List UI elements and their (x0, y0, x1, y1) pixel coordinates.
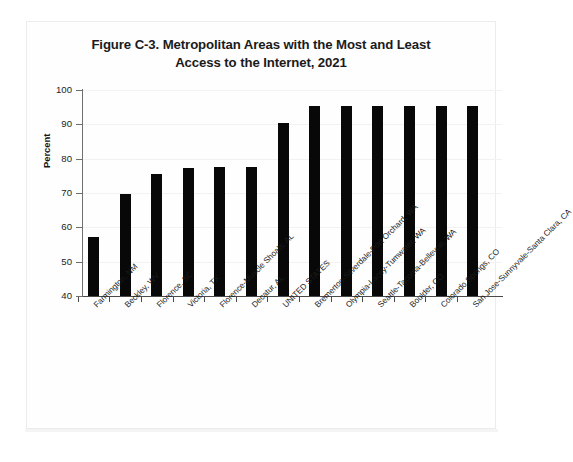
bar (436, 106, 447, 296)
gridline (82, 90, 502, 91)
y-axis-tick (76, 193, 83, 194)
x-axis-tick (362, 297, 363, 302)
bar (278, 123, 289, 296)
x-axis-tick (331, 297, 332, 302)
chart-title-line-1: Figure C-3. Metropolitan Areas with the … (91, 37, 430, 52)
y-axis-tick-label: 70 (44, 187, 72, 198)
y-axis-tick-label: 50 (44, 256, 72, 267)
chart-title-line-2: Access to the Internet, 2021 (40, 54, 482, 72)
y-axis-tick (76, 90, 83, 91)
x-axis-tick (141, 297, 142, 302)
y-axis-tick-label: 40 (44, 290, 72, 301)
plot-area (82, 90, 502, 296)
x-axis-tick (236, 297, 237, 302)
y-axis-tick (76, 262, 83, 263)
x-axis-tick (78, 297, 79, 302)
x-axis-tick (394, 297, 395, 302)
y-axis-tick (76, 124, 83, 125)
y-axis-tick-label: 100 (44, 84, 72, 95)
x-axis-tick (299, 297, 300, 302)
y-axis-tick (76, 159, 83, 160)
y-axis-tick-label: 80 (44, 153, 72, 164)
y-axis-tick-label: 60 (44, 221, 72, 232)
x-axis-tick (457, 297, 458, 302)
y-axis-tick-label: 90 (44, 118, 72, 129)
y-axis-tick (76, 227, 83, 228)
chart-title: Figure C-3. Metropolitan Areas with the … (40, 36, 482, 72)
x-axis-tick (204, 297, 205, 302)
x-axis-tick (173, 297, 174, 302)
bar (88, 237, 99, 296)
